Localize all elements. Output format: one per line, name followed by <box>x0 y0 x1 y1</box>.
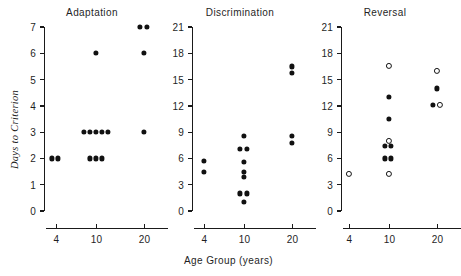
data-point <box>289 133 294 138</box>
panel-title: Adaptation <box>22 7 162 18</box>
y-axis-tick <box>40 132 44 133</box>
y-axis-tick-label: 12 <box>158 100 184 111</box>
x-axis-tick-label: 10 <box>239 234 251 245</box>
y-axis-tick <box>337 210 341 211</box>
y-axis-tick <box>337 184 341 185</box>
y-axis-tick-label: 2 <box>10 153 36 164</box>
y-axis-tick <box>337 158 341 159</box>
y-axis-tick-label: 3 <box>158 179 184 190</box>
data-point <box>144 24 149 29</box>
data-point <box>137 24 142 29</box>
data-point <box>87 156 92 161</box>
y-axis-tick <box>40 210 44 211</box>
data-point <box>55 156 60 161</box>
data-point <box>241 174 246 179</box>
y-axis-tick <box>188 210 192 211</box>
y-axis-tick <box>188 53 192 54</box>
data-point <box>386 62 392 68</box>
y-axis-line <box>341 27 342 211</box>
x-axis-tick <box>144 224 145 228</box>
data-point <box>49 156 54 161</box>
data-point <box>388 144 393 149</box>
x-axis-tick <box>96 224 97 228</box>
data-point <box>81 130 86 135</box>
panel-title: Discrimination <box>170 7 310 18</box>
data-point <box>430 102 435 107</box>
x-axis-tick <box>56 224 57 228</box>
y-axis-line <box>44 27 45 211</box>
x-axis-tick-label: 10 <box>91 234 103 245</box>
y-axis-tick-label: 21 <box>158 22 184 33</box>
y-axis-tick <box>40 184 44 185</box>
y-axis-tick <box>188 132 192 133</box>
x-axis-tick <box>292 224 293 228</box>
data-point <box>241 200 246 205</box>
data-point <box>93 130 98 135</box>
data-point <box>244 191 249 196</box>
y-axis-tick <box>337 105 341 106</box>
data-point <box>93 156 98 161</box>
data-point <box>201 169 206 174</box>
y-axis-tick-label: 18 <box>158 48 184 59</box>
data-point <box>386 116 391 121</box>
y-axis-tick-label: 6 <box>10 48 36 59</box>
y-axis-tick-label: 3 <box>10 127 36 138</box>
x-axis-line <box>343 228 461 229</box>
y-axis-tick-label: 15 <box>158 74 184 85</box>
y-axis-tick <box>337 132 341 133</box>
panel-adaptation: Adaptation 0123456741020 <box>22 0 162 276</box>
x-axis-tick-label: 20 <box>432 234 444 245</box>
y-axis-tick-label: 0 <box>307 206 333 217</box>
panel-reversal: Reversal 03691215182141020 <box>315 0 455 276</box>
data-point <box>388 156 393 161</box>
y-axis-tick-label: 6 <box>158 153 184 164</box>
y-axis-tick-label: 12 <box>307 100 333 111</box>
data-point <box>87 130 92 135</box>
y-axis-tick <box>40 105 44 106</box>
y-axis-tick-label: 9 <box>158 127 184 138</box>
panel-discrimination: Discrimination 03691215182141020 <box>170 0 310 276</box>
y-axis-tick-label: 7 <box>10 22 36 33</box>
y-axis-tick <box>40 79 44 80</box>
y-axis-tick <box>188 26 192 27</box>
data-point <box>386 171 392 177</box>
data-point <box>237 146 242 151</box>
panel-title: Reversal <box>315 7 455 18</box>
data-point <box>241 159 246 164</box>
y-axis-tick-label: 21 <box>307 22 333 33</box>
data-point <box>93 51 98 56</box>
y-axis-tick <box>40 26 44 27</box>
y-axis-tick-label: 15 <box>307 74 333 85</box>
data-point <box>386 95 391 100</box>
x-axis-tick-label: 4 <box>54 234 60 245</box>
y-axis-tick-label: 0 <box>10 206 36 217</box>
y-axis-tick-label: 0 <box>158 206 184 217</box>
data-point <box>201 158 206 163</box>
y-axis-tick-label: 3 <box>307 179 333 190</box>
data-point <box>105 130 110 135</box>
data-point <box>289 64 294 69</box>
data-point <box>382 144 387 149</box>
x-axis-tick-label: 4 <box>347 234 353 245</box>
y-axis-tick-label: 4 <box>10 100 36 111</box>
x-axis-tick-label: 10 <box>384 234 396 245</box>
y-axis-tick <box>40 158 44 159</box>
data-point <box>437 102 443 108</box>
data-point <box>244 146 249 151</box>
data-point <box>289 140 294 145</box>
y-axis-tick <box>337 26 341 27</box>
x-axis-tick <box>349 224 350 228</box>
y-axis-tick-label: 1 <box>10 179 36 190</box>
x-axis-line <box>46 228 168 229</box>
data-point <box>434 86 439 91</box>
x-axis-tick <box>244 224 245 228</box>
y-axis-tick-label: 18 <box>307 48 333 59</box>
data-point <box>241 133 246 138</box>
data-point <box>141 130 146 135</box>
y-axis-tick-label: 6 <box>307 153 333 164</box>
data-point <box>434 68 440 74</box>
x-axis-tick-label: 4 <box>202 234 208 245</box>
y-axis-tick <box>188 105 192 106</box>
data-point <box>141 51 146 56</box>
